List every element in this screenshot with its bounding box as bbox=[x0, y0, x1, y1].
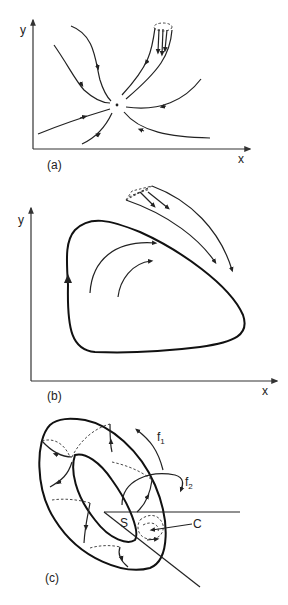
curve-c-pointer bbox=[152, 524, 192, 530]
trajectory bbox=[82, 113, 112, 144]
hidden-trajectory bbox=[72, 424, 110, 457]
torus-outer bbox=[39, 419, 165, 570]
trajectory bbox=[126, 79, 201, 108]
limit-cycle bbox=[67, 221, 245, 353]
initial-region bbox=[126, 186, 152, 200]
panel-c: f1 f2 S C (c) bbox=[39, 419, 240, 587]
trajectory bbox=[90, 243, 155, 293]
trajectory-tube-edge bbox=[122, 28, 155, 95]
trajectory-tube-edge bbox=[152, 186, 232, 270]
torus-trajectory bbox=[119, 547, 128, 567]
curve-label-c: C bbox=[193, 517, 202, 531]
torus-trajectory bbox=[50, 462, 72, 487]
trajectory bbox=[54, 45, 110, 103]
y-axis-label-a: y bbox=[20, 23, 26, 37]
curve-c bbox=[138, 515, 163, 539]
hidden-trajectory bbox=[112, 462, 152, 480]
y-axis-label-b: y bbox=[18, 213, 24, 227]
f2-label: f2 bbox=[185, 475, 193, 491]
x-axis-label-a: x bbox=[238, 152, 244, 166]
figure: y x (a) y x (b) bbox=[0, 0, 288, 605]
panel-b: y x (b) bbox=[18, 186, 277, 403]
curve-c-inner bbox=[143, 523, 158, 532]
trajectory bbox=[38, 109, 110, 134]
f1-label: f1 bbox=[157, 430, 165, 446]
caption-c: (c) bbox=[45, 571, 59, 585]
panel-a: y x (a) bbox=[20, 20, 250, 172]
caption-a: (a) bbox=[47, 158, 62, 172]
hidden-trajectory bbox=[90, 546, 120, 548]
x-axis-label-b: x bbox=[262, 384, 268, 398]
section-label-s: S bbox=[120, 516, 128, 530]
trajectory bbox=[71, 26, 111, 101]
caption-b: (b) bbox=[47, 389, 62, 403]
trajectory-tube-edge bbox=[126, 30, 172, 99]
torus-trajectory bbox=[137, 480, 152, 512]
torus-trajectory bbox=[110, 424, 112, 452]
trajectory bbox=[124, 112, 210, 138]
trajectory bbox=[118, 261, 151, 297]
fixed-point bbox=[116, 104, 119, 107]
